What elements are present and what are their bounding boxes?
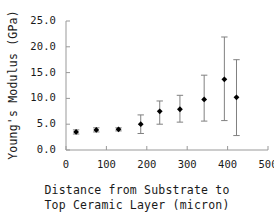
x-axis-tick-label: 300 [167, 158, 207, 170]
x-axis-tick-label: 100 [86, 158, 126, 170]
x-axis-tick-label: 0 [46, 158, 86, 170]
chart-figure: Young's Modulus (GPa) 0.05.010.015.020.0… [0, 0, 274, 221]
x-axis-title: Distance from Substrate to Top Ceramic L… [0, 183, 274, 213]
x-axis-tick-label: 200 [127, 158, 167, 170]
x-axis-title-line1: Distance from Substrate to [0, 183, 274, 198]
x-axis-tick-label: 400 [208, 158, 248, 170]
x-axis-tick-label: 500 [248, 158, 274, 170]
x-axis-title-line2: Top Ceramic Layer (micron) [0, 198, 274, 213]
